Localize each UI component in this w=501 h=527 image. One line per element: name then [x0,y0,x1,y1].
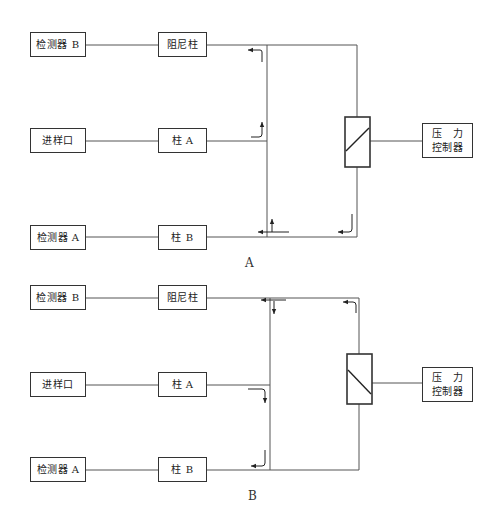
column-b-box-a: 柱 B [158,225,207,250]
pressure-controller-line1: 压 力 [432,371,464,385]
damping-column-label: 阻尼柱 [167,291,199,305]
detector-a-box-a: 检测器 A [30,225,86,250]
column-a-box-b: 柱 A [158,372,207,397]
sample-inlet-label: 进样口 [42,378,74,392]
diagram-label-b: B [248,489,257,503]
column-b-label: 柱 B [171,231,193,245]
sample-inlet-box-b: 进样口 [30,372,86,397]
sample-inlet-box-a: 进样口 [30,128,86,153]
detector-b-box-a: 检测器 B [30,32,86,57]
column-a-label: 柱 A [172,134,194,148]
flow-arrow-b3 [343,302,356,313]
valve-icon-a [345,117,370,167]
pressure-controller-box-a: 压 力 控制器 [422,123,473,158]
pressure-controller-line2: 控制器 [432,141,464,155]
damping-column-label: 阻尼柱 [167,38,199,52]
detector-b-label: 检测器 B [36,38,79,52]
damping-column-box-a: 阻尼柱 [158,32,207,57]
detector-b-box-b: 检测器 B [30,285,86,310]
pressure-controller-box-b: 压 力 控制器 [422,367,473,402]
flow-arrow-a2 [251,122,262,137]
column-a-box-a: 柱 A [158,128,207,153]
valve-icon-b [347,354,372,404]
detector-a-label: 检测器 A [37,231,80,245]
diagram-label-a: A [245,256,254,270]
flow-arrow-b5 [251,450,265,466]
sample-inlet-label: 进样口 [42,134,74,148]
column-b-label: 柱 B [171,463,193,477]
flow-arrow-a1 [248,50,262,62]
damping-column-box-b: 阻尼柱 [158,285,207,310]
pressure-controller-line1: 压 力 [432,127,464,141]
flow-arrow-a5 [338,214,352,232]
detector-a-box-b: 检测器 A [30,457,86,482]
pressure-controller-line2: 控制器 [432,385,464,399]
column-b-box-b: 柱 B [158,457,207,482]
flow-arrow-b4 [248,389,265,403]
column-a-label: 柱 A [172,378,194,392]
detector-a-label: 检测器 A [37,463,80,477]
detector-b-label: 检测器 B [36,291,79,305]
